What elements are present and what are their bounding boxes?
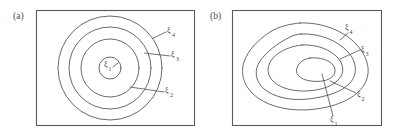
- figure-canvas: ξ 4 ξ 3 ξ 2 ξ 1: [0, 0, 410, 137]
- panel-caption-a: (a): [13, 11, 24, 21]
- panel-a-label-xi4-sub: 4: [172, 32, 175, 38]
- panel-b-label-xi1-glyph: ξ: [330, 115, 334, 124]
- panel-b: ξ 4 ξ 3 ξ 2 ξ 1: [233, 11, 382, 128]
- panel-b-label-xi2-glyph: ξ: [357, 90, 361, 99]
- panel-caption-b: (b): [210, 11, 221, 21]
- panel-a-label-xi1-sub: 1: [109, 66, 112, 72]
- panel-a-label-xi3-glyph: ξ: [171, 50, 175, 59]
- panel-a-label-xi2-sub: 2: [170, 92, 173, 98]
- panel-a-label-xi4-glyph: ξ: [167, 26, 171, 35]
- panel-b-label-xi3-glyph: ξ: [361, 45, 365, 54]
- panel-b-label-xi2-sub: 2: [362, 96, 365, 102]
- panel-b-label-xi1-sub: 1: [335, 121, 338, 127]
- panel-a-label-xi1-glyph: ξ: [104, 60, 108, 69]
- panel-a-label-xi3-sub: 3: [176, 56, 179, 62]
- panel-b-label-xi4-glyph: ξ: [345, 23, 349, 32]
- panel-a: ξ 4 ξ 3 ξ 2 ξ 1: [37, 11, 195, 126]
- panel-b-label-xi3-sub: 3: [366, 51, 369, 57]
- panel-b-label-xi4-sub: 4: [350, 29, 353, 35]
- panel-b-frame: [233, 11, 382, 126]
- figure-two-panel-contours: (a) (b) ξ 4 ξ 3: [0, 0, 410, 137]
- panel-a-label-xi2-glyph: ξ: [165, 86, 169, 95]
